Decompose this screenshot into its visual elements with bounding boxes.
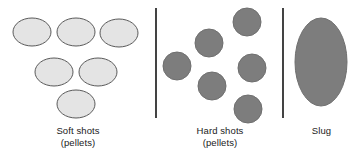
caption-soft-shots: Soft shots (pellets) [0,125,156,148]
hard-shot-pellet [233,8,261,36]
soft-shot-pellet [57,90,95,118]
caption-slug-line1: Slug [284,125,359,137]
hard-shot-pellet [163,52,191,80]
ammunition-types-figure: Soft shots (pellets) Hard shots (pellets… [0,0,359,165]
caption-slug: Slug [284,125,359,137]
slug-group [295,18,347,106]
caption-soft-shots-line1: Soft shots [0,125,156,137]
hard-shot-pellet [195,29,223,57]
soft-shot-pellet [100,19,138,47]
hard-shots-group [163,8,266,123]
soft-shot-pellet [79,58,117,86]
slug-projectile [295,18,347,106]
caption-hard-shots-line2: (pellets) [157,137,283,149]
caption-hard-shots: Hard shots (pellets) [157,125,283,148]
soft-shot-pellet [57,18,95,46]
soft-shots-group [13,18,138,118]
hard-shot-pellet [234,95,262,123]
soft-shot-pellet [35,58,73,86]
soft-shot-pellet [13,18,51,46]
caption-soft-shots-line2: (pellets) [0,137,156,149]
hard-shot-pellet [238,54,266,82]
hard-shot-pellet [198,72,226,100]
caption-hard-shots-line1: Hard shots [157,125,283,137]
